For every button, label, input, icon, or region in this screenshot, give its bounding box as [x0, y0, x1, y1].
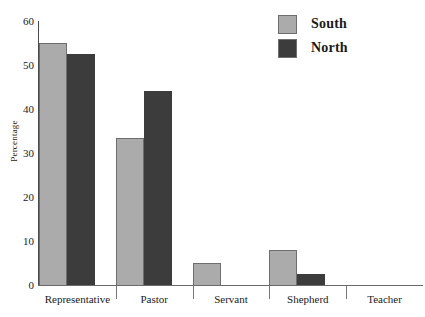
- bar-group-teacher: [346, 21, 423, 285]
- bar-north-shepherd: [297, 274, 325, 285]
- x-axis-labels: Representative Pastor Servant Shepherd T…: [39, 292, 423, 312]
- y-tick-20: 20: [8, 192, 34, 203]
- bar-south-servant: [193, 263, 221, 285]
- bar-south-shepherd: [269, 250, 297, 285]
- bar-south-pastor: [116, 138, 144, 285]
- bar-group-servant: [193, 21, 270, 285]
- y-axis-ticks: 60 50 40 30 20 10 0: [8, 0, 34, 317]
- bar-north-representative: [67, 54, 95, 285]
- x-label-representative: Representative: [39, 292, 116, 312]
- bar-north-pastor: [144, 91, 172, 285]
- y-tick-50: 50: [8, 60, 34, 71]
- plot-area: [39, 21, 423, 285]
- y-tick-60: 60: [8, 16, 34, 27]
- bar-group-pastor: [116, 21, 193, 285]
- x-label-teacher: Teacher: [346, 292, 423, 312]
- bar-group-shepherd: [269, 21, 346, 285]
- y-tick-30: 30: [8, 148, 34, 159]
- y-tick-40: 40: [8, 104, 34, 115]
- y-tick-10: 10: [8, 236, 34, 247]
- x-label-pastor: Pastor: [116, 292, 193, 312]
- y-tick-0: 0: [8, 280, 34, 291]
- bar-south-representative: [39, 43, 67, 285]
- bar-group-representative: [39, 21, 116, 285]
- bar-groups: [39, 21, 423, 285]
- bar-chart: South North Percentage 60 50 40 30 20 10…: [0, 0, 425, 317]
- x-label-servant: Servant: [193, 292, 270, 312]
- x-label-shepherd: Shepherd: [269, 292, 346, 312]
